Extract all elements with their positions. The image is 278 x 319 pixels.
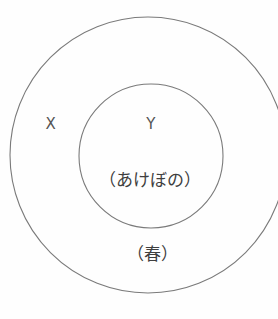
outer-set-circle [10, 17, 278, 293]
inner-set-circle [79, 84, 223, 228]
venn-diagram-svg [0, 0, 278, 319]
diagram-canvas: X Y （あけぼの） （春） [0, 0, 278, 319]
